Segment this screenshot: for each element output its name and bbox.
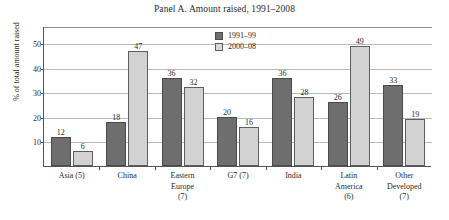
category-separator-tick <box>377 166 378 170</box>
bar-value-label: 6 <box>81 142 85 151</box>
bar-value-label: 28 <box>300 88 308 97</box>
bar-1-1: 47 <box>128 51 148 166</box>
legend-item-0: 1991–99 <box>215 31 256 40</box>
x-axis-category-label: China <box>118 171 137 182</box>
gridline <box>44 93 432 94</box>
y-axis-tick-mark <box>41 69 45 70</box>
bar-value-label: 36 <box>168 69 176 78</box>
bar-value-label: 49 <box>356 37 364 46</box>
bar-0-4: 36 <box>272 78 292 166</box>
plot-top-rule <box>44 27 432 28</box>
legend-swatch-icon <box>215 43 223 51</box>
bar-value-label: 32 <box>190 78 198 87</box>
bar-value-label: 12 <box>57 128 65 137</box>
bar-value-label: 20 <box>223 108 231 117</box>
bar-value-label: 26 <box>334 93 342 102</box>
chart-legend: 1991–992000–08 <box>215 31 256 51</box>
gridline <box>44 118 432 119</box>
bar-1-2: 32 <box>184 87 204 166</box>
x-axis-category-label: Eastern Europe (7) <box>171 171 195 203</box>
bar-1-3: 16 <box>239 127 259 166</box>
bar-0-1: 18 <box>106 122 126 166</box>
x-axis-category-label: India <box>285 171 301 182</box>
y-axis-title: % of total amount raised <box>12 0 21 132</box>
legend-label: 1991–99 <box>228 31 256 40</box>
y-axis-tick-mark <box>41 44 45 45</box>
x-axis-category-label: Other Developed (7) <box>387 171 422 203</box>
category-separator-tick <box>321 166 322 170</box>
x-axis-category-label: Latin America (6) <box>335 171 363 203</box>
bar-1-4: 28 <box>294 97 314 166</box>
bar-value-label: 16 <box>245 118 253 127</box>
bar-1-6: 19 <box>405 119 425 166</box>
category-separator-tick <box>155 166 156 170</box>
bar-0-6: 33 <box>383 85 403 166</box>
category-separator-tick <box>99 166 100 170</box>
bar-value-label: 47 <box>134 42 142 51</box>
legend-swatch-icon <box>215 32 223 40</box>
y-axis-tick-mark <box>41 118 45 119</box>
gridline <box>44 69 432 70</box>
y-axis-tick-mark <box>41 142 45 143</box>
bar-value-label: 36 <box>278 69 286 78</box>
category-separator-tick <box>210 166 211 170</box>
chart-title: Panel A. Amount raised, 1991–2008 <box>0 4 449 14</box>
bar-1-5: 49 <box>350 46 370 166</box>
bar-value-label: 18 <box>112 113 120 122</box>
bar-1-0: 6 <box>73 151 93 166</box>
x-axis-category-label: Asia (5) <box>59 171 85 182</box>
bar-value-label: 19 <box>411 110 419 119</box>
x-axis-category-label: G7 (7) <box>227 171 248 182</box>
bar-0-0: 12 <box>51 137 71 166</box>
bar-0-2: 36 <box>162 78 182 166</box>
legend-item-1: 2000–08 <box>215 42 256 51</box>
category-separator-tick <box>266 166 267 170</box>
bar-value-label: 33 <box>389 76 397 85</box>
y-axis-tick-mark <box>41 93 45 94</box>
bar-0-3: 20 <box>217 117 237 166</box>
gridline <box>44 142 432 143</box>
chart-figure: Panel A. Amount raised, 1991–2008 % of t… <box>0 0 449 220</box>
bar-0-5: 26 <box>328 102 348 166</box>
legend-label: 2000–08 <box>228 42 256 51</box>
